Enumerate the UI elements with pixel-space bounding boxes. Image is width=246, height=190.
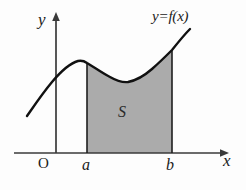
figure-graphics (0, 0, 246, 190)
math-figure-canvas: y x O a b S y=f(x) (0, 0, 246, 190)
x-axis-label: x (223, 152, 231, 169)
shaded-region-s (87, 50, 172, 153)
function-label: y=f(x) (152, 9, 188, 24)
lower-limit-label-a: a (82, 157, 90, 173)
upper-limit-label-b: b (166, 157, 174, 173)
y-axis-label: y (38, 11, 46, 28)
region-label-s: S (118, 104, 126, 120)
y-axis-arrowhead (52, 12, 60, 21)
origin-label: O (38, 156, 49, 171)
